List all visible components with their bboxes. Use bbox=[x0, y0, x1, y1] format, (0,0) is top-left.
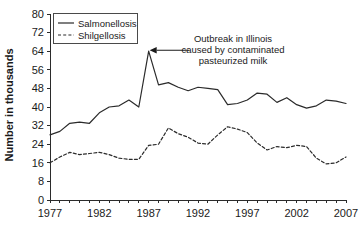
y-axis: 08162432404856647280 bbox=[32, 8, 50, 206]
epidemiology-line-chart: 08162432404856647280 1977198219871992199… bbox=[0, 0, 363, 236]
annotation-text-line-3: pasteurized milk bbox=[199, 55, 268, 66]
x-tick-label: 2002 bbox=[284, 207, 308, 219]
annotation-text-line-1: Outbreak in Illinois bbox=[194, 33, 272, 44]
y-tick-label: 56 bbox=[32, 64, 44, 76]
series-shilgellosis bbox=[50, 127, 346, 164]
y-tick-label: 40 bbox=[32, 101, 44, 113]
y-tick-label: 8 bbox=[38, 175, 44, 187]
data-series-group bbox=[50, 51, 346, 164]
y-tick-label: 64 bbox=[32, 45, 44, 57]
chart-container: 08162432404856647280 1977198219871992199… bbox=[0, 0, 363, 236]
x-tick-label: 2007 bbox=[334, 207, 358, 219]
x-tick-label: 1982 bbox=[87, 207, 111, 219]
x-axis-ticks: 1977198219871992199720022007 bbox=[38, 200, 358, 219]
x-axis: 1977198219871992199720022007 bbox=[38, 200, 358, 219]
y-tick-label: 16 bbox=[32, 157, 44, 169]
x-tick-label: 1987 bbox=[136, 207, 160, 219]
annotation-group: Outbreak in Illinois caused by contamina… bbox=[150, 33, 285, 66]
x-tick-label: 1997 bbox=[235, 207, 259, 219]
annotation-arrow-head bbox=[150, 47, 157, 53]
annotation-text-line-2: caused by contaminated bbox=[182, 44, 285, 55]
y-tick-label: 72 bbox=[32, 26, 44, 38]
chart-legend: Salmonellosis Shilgellosis bbox=[53, 13, 137, 43]
y-tick-label: 24 bbox=[32, 138, 44, 150]
x-tick-label: 1977 bbox=[38, 207, 62, 219]
y-tick-label: 48 bbox=[32, 82, 44, 94]
y-axis-title: Number in thousands bbox=[3, 48, 15, 161]
y-axis-ticks: 08162432404856647280 bbox=[32, 8, 50, 206]
y-tick-label: 32 bbox=[32, 119, 44, 131]
y-tick-label: 80 bbox=[32, 8, 44, 20]
y-tick-label: 0 bbox=[38, 194, 44, 206]
legend-label-shilgellosis: Shilgellosis bbox=[78, 30, 126, 41]
x-tick-label: 1992 bbox=[186, 207, 210, 219]
legend-label-salmonellosis: Salmonellosis bbox=[78, 18, 137, 29]
